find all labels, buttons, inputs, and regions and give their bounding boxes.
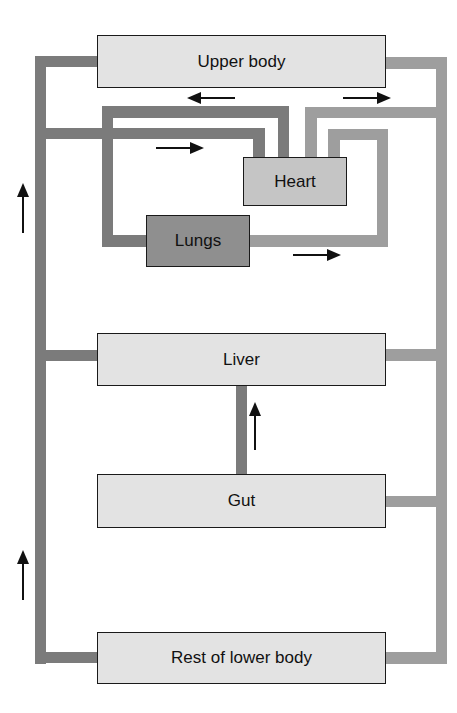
arrow-up-icon xyxy=(17,550,29,601)
liver-right-vessel xyxy=(385,349,447,361)
liver-left-vessel xyxy=(35,350,98,361)
node-lungs: Lungs xyxy=(146,215,250,267)
node-liver: Liver xyxy=(97,333,386,386)
arrow-up-icon xyxy=(17,183,29,234)
node-lower-body-label: Rest of lower body xyxy=(171,648,312,668)
pulmonary-vein-right xyxy=(377,129,388,247)
node-upper-body: Upper body xyxy=(97,35,386,88)
node-lungs-label: Lungs xyxy=(175,231,221,251)
pulmonary-artery-to-lungs xyxy=(102,235,148,247)
node-gut: Gut xyxy=(97,474,386,528)
vena-cava-into-heart xyxy=(253,128,265,158)
arrow-up-icon xyxy=(249,402,261,451)
pulmonary-artery-top xyxy=(102,106,289,118)
gut-right-vessel xyxy=(385,496,447,507)
aorta-horizontal xyxy=(305,107,447,118)
upper-body-left-vessel xyxy=(35,56,98,67)
upper-body-right-vessel xyxy=(385,57,447,69)
node-upper-body-label: Upper body xyxy=(198,52,286,72)
node-heart-label: Heart xyxy=(274,172,316,192)
pulmonary-vein-bottom xyxy=(249,235,388,247)
lower-body-left-vessel xyxy=(35,652,98,663)
vena-cava-horizontal xyxy=(35,128,265,139)
circulation-diagram: Upper body Heart Lungs Liver Gut Rest of… xyxy=(0,0,457,713)
pulmonary-artery-left xyxy=(102,106,113,247)
lower-body-right-vessel xyxy=(385,652,447,664)
node-liver-label: Liver xyxy=(223,350,260,370)
portal-vein xyxy=(236,385,247,475)
arrow-left-icon xyxy=(187,92,236,104)
pulmonary-vein-into-heart xyxy=(328,129,340,158)
node-heart: Heart xyxy=(243,157,347,206)
pulmonary-artery-from-heart xyxy=(278,106,289,158)
arrow-right-icon xyxy=(155,142,204,154)
node-gut-label: Gut xyxy=(228,491,255,511)
arrow-right-icon xyxy=(342,92,391,104)
node-lower-body: Rest of lower body xyxy=(97,632,386,684)
arrow-right-icon xyxy=(292,249,341,261)
